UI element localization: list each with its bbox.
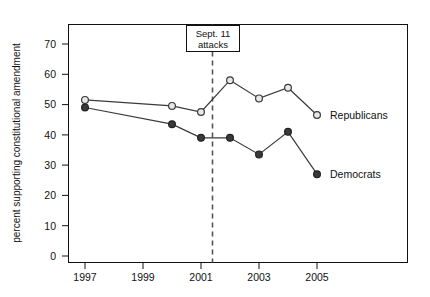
data-point-democrats [314,171,321,178]
line-chart-svg: 0 10 20 30 40 50 60 70 percent supportin… [0,0,430,297]
data-point-democrats [169,121,176,128]
data-point-republicans [169,103,176,110]
y-axis-tick-labels: 0 10 20 30 40 50 60 70 [44,38,56,262]
x-tick-label: 1997 [73,271,97,283]
y-tick-label: 60 [44,68,56,80]
data-point-republicans [314,112,321,119]
x-tick-label: 2003 [247,271,271,283]
data-point-republicans [198,109,205,116]
x-axis-tick-labels: 1997 1999 2001 2003 2005 [73,271,329,283]
data-point-republicans [256,95,263,102]
annotation-line-1: Sept. 11 [196,28,231,39]
data-point-democrats [256,151,263,158]
y-tick-label: 50 [44,98,56,110]
y-tick-label: 20 [44,189,56,201]
data-point-republicans [227,77,234,84]
data-point-democrats [198,134,205,141]
x-tick-label: 2005 [305,271,329,283]
sept-11-annotation: Sept. 11 attacks [187,26,240,52]
data-point-democrats [82,104,89,111]
annotation-line-2: attacks [198,39,228,50]
y-tick-label: 0 [50,250,56,262]
series-markers-republicans [82,77,321,119]
y-tick-label: 70 [44,38,56,50]
x-tick-label: 2001 [189,271,213,283]
plot-frame [69,25,408,263]
data-point-republicans [285,84,292,91]
data-point-republicans [82,97,89,104]
x-axis-ticks [85,263,317,270]
x-tick-label: 1999 [131,271,155,283]
data-point-democrats [285,128,292,135]
y-axis-ticks [62,44,69,256]
data-point-democrats [227,134,234,141]
y-axis-title: percent supporting constitutional amendm… [11,43,22,243]
series-label-republicans: Republicans [330,109,388,121]
series-label-democrats: Democrats [330,168,381,180]
y-tick-label: 40 [44,129,56,141]
chart-figure: 0 10 20 30 40 50 60 70 percent supportin… [0,0,430,297]
y-tick-label: 10 [44,220,56,232]
y-tick-label: 30 [44,159,56,171]
